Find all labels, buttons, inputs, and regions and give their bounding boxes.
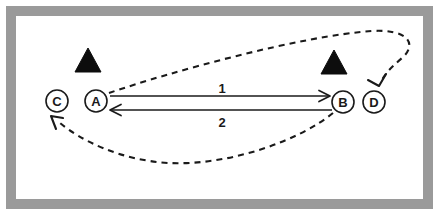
node-d: D [363, 91, 385, 113]
node-b: B [332, 91, 354, 113]
edge-2-label: 2 [218, 115, 225, 130]
diagram-root: CABD 12 [0, 0, 439, 215]
node-c-label: C [52, 94, 62, 109]
node-a-label: A [91, 94, 101, 109]
edge-1-label: 1 [218, 81, 225, 96]
node-a: A [85, 90, 107, 112]
node-c: C [46, 90, 68, 112]
node-d-label: D [369, 95, 378, 110]
node-b-label: B [338, 95, 347, 110]
diagram-canvas: CABD 12 [0, 0, 439, 215]
